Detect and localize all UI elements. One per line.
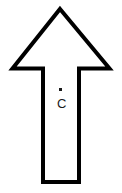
- figure-canvas: C: [0, 0, 122, 193]
- arrow-diagram: [0, 0, 122, 193]
